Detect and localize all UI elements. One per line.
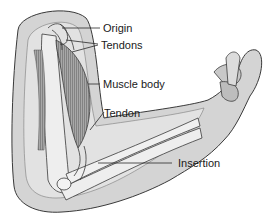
label-origin: Origin [103,22,132,34]
label-tendon: Tendon [104,107,140,119]
label-muscle-body: Muscle body [103,78,165,90]
muscle-diagram: Origin Tendons Muscle body Tendon Insert… [0,0,278,221]
label-insertion: Insertion [178,157,220,169]
label-tendons: Tendons [101,39,143,51]
